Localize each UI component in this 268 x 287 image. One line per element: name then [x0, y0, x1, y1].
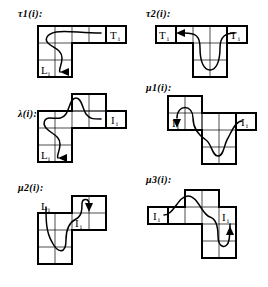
side-box-mu1-I-label: I: [241, 116, 245, 128]
diagram-lambda: I i L i: [0, 86, 134, 186]
inner-label-mu2-I-right-sub: i: [80, 223, 82, 231]
side-box-tau2-T-right-label: T: [230, 29, 237, 41]
panel-lambda: λ(i):: [0, 86, 134, 186]
arrow-mu2-down: [85, 203, 93, 212]
arrow-mu3-up: [226, 226, 234, 235]
side-box-tau1-T-label: T: [110, 29, 117, 41]
arrow-tau2-left: [176, 29, 185, 37]
arrow-lambda-left: [58, 154, 67, 162]
panel-mu2: μ2(i): L i I i: [0, 176, 134, 287]
inner-label-mu3-I-right: I: [222, 211, 226, 223]
thread-curve-mu1: [177, 108, 242, 157]
diagram-tau2: T i T i: [134, 0, 268, 86]
arrow-tau1-left: [60, 68, 69, 76]
panel-tau2: τ2(i): T i: [134, 0, 268, 86]
panel-tau1: τ1(i):: [0, 0, 134, 86]
figure-root: τ1(i):: [0, 0, 268, 287]
inner-label-tau1-L-sub: i: [48, 70, 50, 78]
side-box-mu1-I-sub: i: [246, 122, 248, 130]
side-box-mu3-I-left-sub: i: [158, 216, 160, 224]
thread-curve-mu3: [164, 196, 230, 246]
thread-curve-mu2: [46, 200, 89, 251]
side-box-tau2-T-left-sub: i: [167, 35, 169, 43]
inner-label-mu2-L-left: L: [41, 200, 48, 212]
diagram-mu2: L i I i: [0, 176, 134, 287]
side-box-tau2-T-left-label: T: [159, 29, 166, 41]
inner-label-tau1-L: L: [41, 64, 48, 76]
diagram-tau1: T i L i: [0, 0, 134, 86]
thread-curve-tau1: [46, 31, 101, 72]
inner-label-lambda-L: L: [41, 149, 48, 161]
side-box-lambda-I-sub: i: [116, 120, 118, 128]
inner-label-mu2-L-left-sub: i: [48, 206, 50, 214]
side-box-mu3-I-left-label: I: [153, 210, 157, 222]
diagram-mu3: I i I i: [134, 170, 268, 287]
panel-mu3: μ3(i): I i: [134, 170, 268, 287]
inner-label-lambda-L-sub: i: [48, 155, 50, 163]
side-box-lambda-I-label: I: [111, 114, 115, 126]
side-box-tau1-T-sub: i: [118, 35, 120, 43]
inner-label-mu3-I-right-sub: i: [227, 217, 229, 225]
side-box-tau2-T-right-sub: i: [238, 35, 240, 43]
